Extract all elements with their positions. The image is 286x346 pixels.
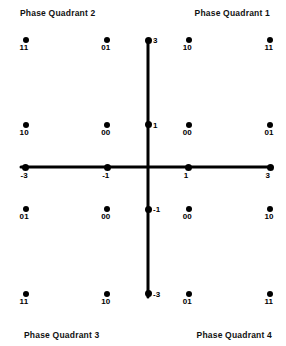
point-symbol-label: 00: [183, 128, 192, 137]
y-tick-marker-dot: [145, 37, 152, 44]
quadrant-label-3: Phase Quadrant 3: [24, 330, 99, 340]
point-symbol-label: 00: [101, 128, 110, 137]
y-tick-marker-dot: [145, 121, 152, 128]
point-symbol-label: 10: [264, 212, 273, 221]
y-tick-label: -1: [153, 205, 160, 214]
point-symbol-label: 01: [20, 212, 29, 221]
point-symbol-label: 00: [101, 212, 110, 221]
quadrant-label-4: Phase Quadrant 4: [197, 330, 272, 340]
point-symbol-label: 01: [264, 128, 273, 137]
point-symbol-label: 10: [101, 297, 110, 306]
point-symbol-label: 10: [20, 128, 29, 137]
quadrant-label-1: Phase Quadrant 1: [195, 8, 270, 18]
x-tick-marker-dot: [267, 164, 274, 171]
y-tick-label: -3: [153, 290, 160, 299]
x-tick-marker-dot: [22, 164, 29, 171]
x-tick-label: -3: [21, 171, 28, 180]
quadrant-label-2: Phase Quadrant 2: [20, 8, 95, 18]
point-symbol-label: 01: [183, 297, 192, 306]
x-tick-label: 1: [184, 171, 188, 180]
point-symbol-label: 10: [183, 43, 192, 52]
x-tick-marker-dot: [185, 164, 192, 171]
point-symbol-label: 00: [183, 212, 192, 221]
y-tick-label: 3: [153, 36, 157, 45]
y-tick-marker-dot: [145, 206, 152, 213]
y-tick-marker-dot: [145, 290, 152, 297]
point-symbol-label: 11: [20, 43, 29, 52]
point-symbol-label: 11: [264, 297, 273, 306]
x-tick-label: -1: [102, 171, 109, 180]
y-tick-label: 1: [153, 121, 157, 130]
constellation-diagram: Phase Quadrant 2 Phase Quadrant 1 Phase …: [0, 0, 286, 346]
point-symbol-label: 01: [101, 43, 110, 52]
point-symbol-label: 11: [20, 297, 29, 306]
point-symbol-label: 11: [264, 43, 273, 52]
axes-lines: [0, 0, 286, 346]
x-tick-marker-dot: [104, 164, 111, 171]
x-tick-label: 3: [265, 171, 269, 180]
